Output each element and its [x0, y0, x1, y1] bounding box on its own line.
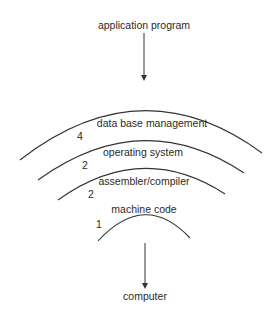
- layer-1-label: machine code: [111, 203, 176, 215]
- layer-2-number: 2: [88, 188, 94, 200]
- top-label: application program: [98, 19, 190, 31]
- layer-diagram-graphics: [0, 0, 280, 316]
- layer-4-label: data base management: [97, 117, 207, 129]
- layer-2-label: assembler/compiler: [98, 175, 189, 187]
- layer-1-number: 1: [96, 218, 102, 230]
- layer-3-number: 2: [82, 159, 88, 171]
- bottom-label: computer: [123, 290, 167, 302]
- layer-3-label: operating system: [103, 146, 183, 158]
- layer-4-number: 4: [77, 130, 83, 142]
- arc-layer-1: [98, 215, 190, 241]
